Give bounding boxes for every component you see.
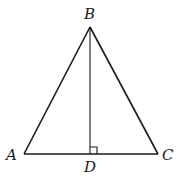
label-a: A: [4, 146, 17, 164]
right-angle-marker-icon: [90, 147, 97, 154]
segment-ab: [24, 27, 90, 154]
label-c: C: [162, 146, 174, 164]
triangle-diagram: B A C D: [0, 0, 182, 176]
label-d: D: [83, 158, 96, 176]
label-b: B: [83, 5, 95, 23]
segment-bc: [90, 27, 158, 154]
